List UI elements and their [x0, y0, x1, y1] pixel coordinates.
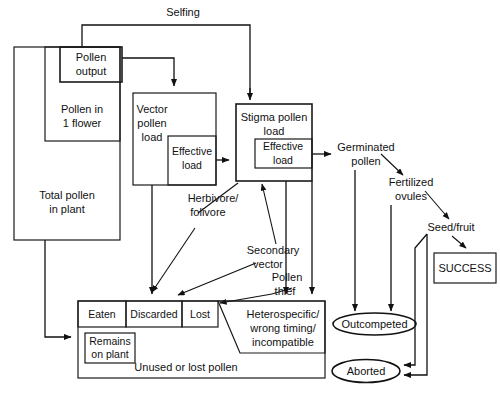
- connector-output-to-vector: [122, 58, 174, 86]
- connector-germinated-to-fertilized: [381, 154, 403, 175]
- label-heterospecific-3: incompatible: [252, 336, 314, 348]
- label-pollen-in-flower-2: 1 flower: [63, 117, 102, 129]
- label-discarded: Discarded: [130, 308, 177, 320]
- label-vector-effective-2: load: [182, 159, 202, 171]
- label-pollen-thief-1: Pollen: [272, 271, 303, 283]
- connector-total-to-unused: [45, 240, 71, 337]
- label-seed-fruit: Seed/fruit: [427, 221, 474, 233]
- connector-seed-to-success: [452, 236, 466, 248]
- label-stigma-load-2: load: [264, 125, 285, 137]
- label-aborted: Aborted: [347, 365, 386, 377]
- label-pollen-output-1: Pollen: [76, 51, 107, 63]
- label-selfing: Selfing: [166, 6, 200, 18]
- label-pollen-output-2: output: [76, 65, 107, 77]
- label-vector-load-2: pollen: [137, 117, 166, 129]
- label-lost: Lost: [190, 308, 210, 320]
- label-pollen-thief-2: thief: [275, 285, 297, 297]
- label-vector-load-1: Vector: [136, 103, 168, 115]
- label-germinated-1: Germinated: [337, 141, 394, 153]
- label-herbivore-1: Herbivore/: [188, 192, 240, 204]
- label-vector-effective-1: Effective: [172, 145, 212, 157]
- label-remains-1: Remains: [89, 335, 130, 347]
- label-vector-load-3: load: [142, 131, 163, 143]
- pollen-fate-diagram: Selfing Pollen output Pollen in 1 flower…: [0, 0, 500, 401]
- label-germinated-2: pollen: [351, 155, 380, 167]
- label-total-pollen-2: in plant: [49, 203, 84, 215]
- label-heterospecific-1: Heterospecific/: [247, 308, 321, 320]
- label-remains-2: on plant: [91, 348, 128, 360]
- label-heterospecific-2: wrong timing/: [249, 322, 316, 334]
- diagram-canvas: Selfing Pollen output Pollen in 1 flower…: [0, 0, 500, 401]
- label-fertilized-1: Fertilized: [389, 176, 434, 188]
- label-outcompeted: Outcompeted: [341, 318, 407, 330]
- label-secondary-1: Secondary: [247, 244, 300, 256]
- label-stigma-effective-2: load: [273, 154, 293, 166]
- label-pollen-in-flower-1: Pollen in: [61, 103, 103, 115]
- label-eaten: Eaten: [88, 308, 116, 320]
- label-unused-or-lost: Unused or lost pollen: [134, 361, 237, 373]
- label-herbivore-2: folivore: [190, 206, 225, 218]
- label-secondary-2: vector: [253, 258, 283, 270]
- connector-fertilized-to-seed: [425, 191, 449, 219]
- connector-selfing: [82, 25, 250, 100]
- label-stigma-load-1: Stigma pollen: [241, 111, 308, 123]
- label-stigma-effective-1: Effective: [263, 140, 303, 152]
- label-fertilized-2: ovules: [395, 190, 427, 202]
- label-total-pollen-1: Total pollen: [39, 189, 95, 201]
- label-success: SUCCESS: [438, 262, 491, 274]
- connector-seed-to-aborted: [404, 234, 427, 375]
